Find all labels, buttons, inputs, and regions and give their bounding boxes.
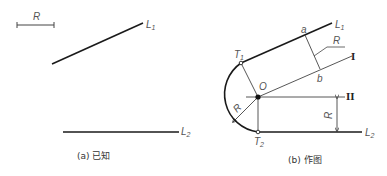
caption-a: (a) 已知 bbox=[77, 150, 110, 161]
line-l1 bbox=[52, 23, 143, 64]
radius-leader bbox=[314, 47, 345, 56]
line-l2-label: L2 bbox=[365, 127, 375, 139]
line-l1-label: L1 bbox=[146, 19, 156, 31]
offset-line-1 bbox=[258, 56, 352, 97]
scale-label: R bbox=[33, 11, 40, 22]
point-a-label: a bbox=[301, 24, 307, 35]
point-b-label: b bbox=[317, 73, 323, 84]
line-l1 bbox=[241, 23, 332, 63]
center-point-o bbox=[255, 94, 260, 99]
panel-b-construction: L1 I a b R II L2 R R O T1 T2 bbox=[225, 19, 375, 165]
radius-scale-bar: R bbox=[17, 11, 54, 28]
tangent-point-t1 bbox=[239, 61, 243, 65]
tangent-point-t1-label: T1 bbox=[234, 49, 244, 61]
caption-b: (b) 作图 bbox=[288, 154, 322, 165]
radius-arc-label: R bbox=[231, 102, 244, 115]
tangent-point-t2 bbox=[256, 130, 260, 134]
tangent-arc bbox=[225, 63, 258, 132]
tangent-point-t2-label: T2 bbox=[254, 136, 264, 148]
panel-a-given: R L1 L2 (a) 已知 bbox=[17, 11, 191, 161]
line-l2-label: L2 bbox=[181, 126, 191, 138]
radius-leader-label: R bbox=[333, 35, 340, 46]
offset-line-1-label: I bbox=[351, 50, 355, 62]
perpendicular-ab bbox=[305, 35, 320, 69]
diagram-canvas: R L1 L2 (a) 已知 L1 I a b R II L2 R bbox=[0, 0, 387, 176]
radius-dimension-label: R bbox=[323, 112, 334, 119]
center-label: O bbox=[259, 81, 267, 92]
radius-o-t1 bbox=[241, 63, 258, 97]
offset-line-2-label: II bbox=[346, 90, 355, 102]
line-l1-label: L1 bbox=[335, 19, 345, 31]
